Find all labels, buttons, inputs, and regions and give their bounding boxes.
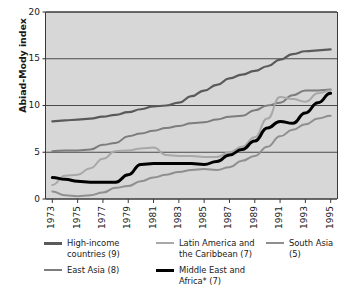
series-line <box>52 93 330 182</box>
chart-figure: Abiad-Mody index 05101520 19731975197719… <box>0 0 347 300</box>
legend-label: Latin America and the Caribbean (7) <box>179 238 255 259</box>
chart-legend: High-income countries (9)Latin America a… <box>44 238 347 296</box>
plot-area <box>45 12 338 199</box>
legend-swatch-icon <box>156 269 174 272</box>
x-tick-label: 1977 <box>97 201 106 235</box>
legend-label: Middle East and Africa* (7) <box>179 265 245 286</box>
y-tick-label: 0 <box>18 195 40 204</box>
x-tick-label: 1991 <box>275 201 284 235</box>
legend-item[interactable]: East Asia (8) <box>44 265 119 276</box>
x-tick-label: 1975 <box>72 201 81 235</box>
legend-label: High-income countries (9) <box>67 238 120 259</box>
x-tick-label: 1973 <box>47 201 56 235</box>
y-tick-label: 5 <box>18 148 40 157</box>
legend-swatch-icon <box>44 269 62 271</box>
legend-item[interactable]: Middle East and Africa* (7) <box>156 265 245 286</box>
legend-swatch-icon <box>266 242 284 244</box>
x-axis-tick-labels: 1973197519771979198119831985198719891991… <box>45 199 336 239</box>
legend-item[interactable]: Latin America and the Caribbean (7) <box>156 238 255 259</box>
x-tick-label: 1987 <box>224 201 233 235</box>
x-tick-label: 1995 <box>325 201 334 235</box>
legend-label: South Asia (5) <box>289 238 347 259</box>
x-tick-label: 1983 <box>173 201 182 235</box>
y-tick-label: 15 <box>18 54 40 63</box>
legend-item[interactable]: South Asia (5) <box>266 238 347 259</box>
series-line <box>52 49 330 121</box>
plot-lines <box>46 12 337 205</box>
legend-item[interactable]: High-income countries (9) <box>44 238 120 259</box>
x-tick-label: 1981 <box>148 201 157 235</box>
y-tick-label: 20 <box>18 8 40 17</box>
x-tick-label: 1989 <box>249 201 258 235</box>
y-axis-tick-labels: 05101520 <box>16 0 40 210</box>
legend-label: East Asia (8) <box>67 265 119 276</box>
x-tick-label: 1979 <box>123 201 132 235</box>
x-tick-label: 1993 <box>300 201 309 235</box>
legend-swatch-icon <box>156 242 174 244</box>
x-tick-label: 1985 <box>199 201 208 235</box>
legend-swatch-icon <box>44 242 62 245</box>
y-tick-label: 10 <box>18 101 40 110</box>
